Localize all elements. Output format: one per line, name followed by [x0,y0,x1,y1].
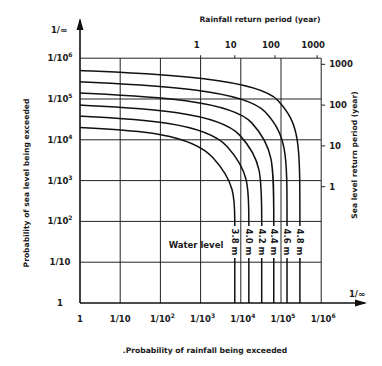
x-tick-label: 1/103 [190,312,215,324]
y-tick-label: 1 [57,298,63,308]
chart: 3.8 m4.0 m4.2 m4.4 m4.6 m4.8 m 11/101/10… [0,0,382,366]
y-end-label: 1/∞ [51,25,67,35]
x-axis-title: .Probability of rainfall being exceeded [123,346,287,355]
curve-3-8-m [80,128,235,303]
water-level-curves: 3.8 m4.0 m4.2 m4.4 m4.6 m4.8 m [80,70,305,303]
curve-label: 4.0 m [244,229,254,256]
y-tick-label: 1/103 [47,174,72,186]
top-tick-label: 1000 [301,40,325,50]
curve-4-0-m [80,116,249,303]
y-tick-label: 1/102 [47,214,72,226]
x-axis-arrow-icon [355,300,367,307]
y-axis-arrow-icon [77,18,84,30]
water-level-annotation: Water level [169,240,224,250]
y-tick-label: 1/104 [47,133,72,145]
right-axis-title: Sea level return period (year) [350,91,359,218]
y-tick-label: 1/105 [47,92,72,104]
top-tick-label: 1 [194,40,200,50]
curve-4-6-m [80,82,287,303]
x-end-label: 1/∞ [349,289,365,299]
curve-4-8-m [80,70,300,303]
x-tick-label: 1/102 [150,312,175,324]
y-axis-title: Probability of sea level being exceeded [22,99,31,268]
curve-label: 4.8 m [295,229,305,256]
x-tick-label: 1/106 [311,312,336,324]
curve-label: 4.2 m [257,229,267,256]
right-tick-label: 10 [329,141,341,151]
curve-label: 3.8 m [230,229,240,256]
right-tick-label: 1000 [329,59,353,69]
top-tick-label: 10 [225,40,237,50]
x-tick-label: 1/10 [110,314,131,324]
top-tick-label: 100 [262,40,280,50]
x-tick-label: 1 [77,314,83,324]
tick-labels: 11/101/1021/1031/1041/1051/1061/∞11/101/… [47,25,365,324]
y-tick-label: 1/10 [50,257,71,267]
right-tick-label: 1 [329,182,335,192]
curve-label: 4.4 m [269,229,279,256]
x-tick-label: 1/105 [270,312,295,324]
curve-label: 4.6 m [282,229,292,256]
x-tick-label: 1/104 [230,312,255,324]
y-tick-label: 1/106 [47,51,72,63]
right-tick-label: 100 [329,100,347,110]
top-axis-title: Rainfall return period (year) [199,15,320,24]
